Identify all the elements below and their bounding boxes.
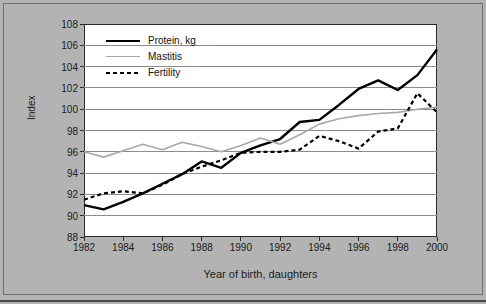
chart-legend: Protein, kg Mastitis Fertility [106, 32, 196, 80]
legend-item-mastitis: Mastitis [106, 48, 196, 64]
y-tick-label: 92 [48, 189, 78, 200]
y-tick-label: 94 [48, 168, 78, 179]
x-tick-label: 2000 [426, 242, 448, 253]
x-tick-label: 1996 [347, 242, 369, 253]
y-tick-label: 96 [48, 146, 78, 157]
x-tick-label: 1998 [387, 242, 409, 253]
y-tick-label: 100 [48, 104, 78, 115]
y-tick-label: 104 [48, 61, 78, 72]
x-axis-label: Year of birth, daughters [84, 268, 437, 280]
legend-item-fertility: Fertility [106, 64, 196, 80]
x-tick-label: 1982 [73, 242, 95, 253]
x-tick-label: 1988 [191, 242, 213, 253]
plot-container: 889092949698100102104106108 198219841986… [84, 24, 437, 237]
y-axis-label: Index [26, 96, 37, 120]
series-mastitis [84, 107, 437, 157]
legend-label-protein: Protein, kg [148, 35, 196, 46]
chart-figure: 889092949698100102104106108 198219841986… [0, 0, 486, 304]
x-tick-label: 1986 [151, 242, 173, 253]
y-tick-label: 88 [48, 232, 78, 243]
legend-label-fertility: Fertility [148, 67, 180, 78]
y-tick-label: 106 [48, 40, 78, 51]
footer-rule [0, 300, 486, 302]
y-tick-label: 102 [48, 82, 78, 93]
x-tick-label: 1992 [269, 242, 291, 253]
legend-swatch-protein [106, 34, 140, 46]
x-tick-label: 1984 [112, 242, 134, 253]
legend-label-mastitis: Mastitis [148, 51, 182, 62]
x-tick-label: 1994 [308, 242, 330, 253]
y-tick-label: 90 [48, 210, 78, 221]
x-tick-label: 1990 [230, 242, 252, 253]
legend-swatch-mastitis [106, 50, 140, 62]
legend-item-protein: Protein, kg [106, 32, 196, 48]
y-tick-label: 108 [48, 19, 78, 30]
y-tick-label: 98 [48, 125, 78, 136]
legend-swatch-fertility [106, 66, 140, 78]
